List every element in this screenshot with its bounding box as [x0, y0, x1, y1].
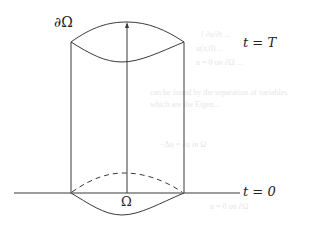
- bottom-time-label: t = 0: [243, 184, 276, 199]
- top-time-label: t = T: [243, 35, 276, 50]
- domain-label: Ω: [121, 194, 132, 209]
- arrowhead-icon: [125, 22, 129, 28]
- boundary-label: ∂Ω: [54, 14, 73, 30]
